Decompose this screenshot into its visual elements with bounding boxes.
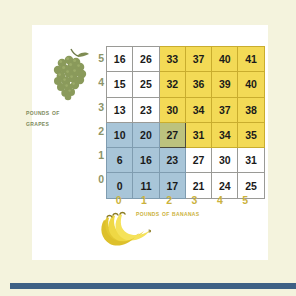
table-row: 16 26 33 37 40 41 — [107, 47, 265, 72]
x-tick: 3 — [182, 194, 207, 206]
grid-cell: 20 — [133, 122, 159, 147]
grid-cell: 31 — [185, 122, 211, 147]
grid-cell: 30 — [212, 148, 238, 173]
table-row: 6 16 23 27 30 31 — [107, 148, 265, 173]
y-tick: 4 — [92, 70, 104, 94]
y-axis-tick-labels: 5 4 3 2 1 0 — [92, 46, 104, 192]
grid-cell: 25 — [133, 72, 159, 97]
grid-cell-highlighted: 27 — [159, 122, 185, 147]
value-table: 16 26 33 37 40 41 15 25 32 36 39 40 13 — [106, 46, 265, 199]
grid-cell: 27 — [185, 148, 211, 173]
table-row: 10 20 27 31 34 35 — [107, 122, 265, 147]
y-tick: 3 — [92, 95, 104, 119]
y-tick: 1 — [92, 143, 104, 167]
grape-cluster-icon — [47, 45, 93, 103]
grid-cell: 34 — [185, 97, 211, 122]
x-tick: 2 — [157, 194, 182, 206]
y-axis-caption-line2: grapes — [26, 118, 98, 129]
grid-cell: 31 — [238, 148, 264, 173]
grid-cell: 39 — [212, 72, 238, 97]
grid-cell: 40 — [212, 47, 238, 72]
y-tick: 2 — [92, 119, 104, 143]
grid-cell: 40 — [238, 72, 264, 97]
grid-cell: 10 — [107, 122, 133, 147]
grid-cell: 33 — [159, 47, 185, 72]
grid-cell: 41 — [238, 47, 264, 72]
grid-cell: 38 — [238, 97, 264, 122]
table-row: 13 23 30 34 37 38 — [107, 97, 265, 122]
utility-grid: 16 26 33 37 40 41 15 25 32 36 39 40 13 — [106, 46, 265, 199]
x-axis-tick-labels: 0 1 2 3 4 5 — [106, 194, 258, 206]
grid-cell: 26 — [133, 47, 159, 72]
y-axis-caption: Pounds of grapes — [26, 107, 98, 129]
grid-cell: 32 — [159, 72, 185, 97]
grid-cell: 15 — [107, 72, 133, 97]
grid-cell: 16 — [107, 47, 133, 72]
table-row: 15 25 32 36 39 40 — [107, 72, 265, 97]
grid-cell: 35 — [238, 122, 264, 147]
grid-cell: 23 — [133, 97, 159, 122]
grid-cell: 37 — [185, 47, 211, 72]
grid-cell: 36 — [185, 72, 211, 97]
grid-cell: 30 — [159, 97, 185, 122]
figure-page: Pounds of grapes 5 4 3 2 1 0 16 26 33 37… — [0, 0, 296, 296]
bottom-accent-bar — [10, 283, 296, 289]
x-tick: 4 — [207, 194, 232, 206]
grid-cell: 6 — [107, 148, 133, 173]
x-tick: 0 — [106, 194, 131, 206]
grid-cell: 23 — [159, 148, 185, 173]
y-tick: 0 — [92, 167, 104, 191]
grid-cell: 34 — [212, 122, 238, 147]
y-tick: 5 — [92, 46, 104, 70]
x-tick: 5 — [232, 194, 257, 206]
grid-cell: 37 — [212, 97, 238, 122]
x-tick: 1 — [131, 194, 156, 206]
banana-bunch-icon — [95, 211, 153, 251]
grid-cell: 13 — [107, 97, 133, 122]
grid-cell: 16 — [133, 148, 159, 173]
y-axis-caption-line1: Pounds of — [26, 107, 98, 118]
